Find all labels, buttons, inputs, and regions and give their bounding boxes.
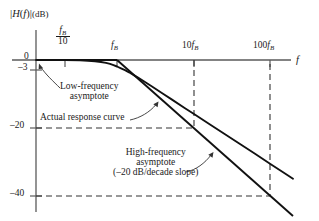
high-frequency-asymptote-line <box>117 60 293 216</box>
y-tick-label-minus20: –20 <box>10 121 24 131</box>
x-axis-label: f <box>296 54 299 65</box>
x-tick-label-fb-over-10-den: 10 <box>56 37 70 47</box>
y-tick-label-minus40: –40 <box>10 189 24 199</box>
annotation-high-frequency-asymptote: High-frequency asymptote (–20 dB/decade … <box>113 148 198 178</box>
x-tick-label-fb-sub: B <box>114 44 118 51</box>
y-tick-label-minus3: –3 <box>18 63 28 73</box>
low-frequency-asymptote-leader <box>41 67 61 89</box>
x-tick-label-10fb: 10fB <box>182 41 198 51</box>
y-axis-title: |H(f)|(dB) <box>10 8 48 20</box>
annotation-low-frequency-asymptote: Low-frequency asymptote <box>60 82 119 102</box>
x-tick-label-fb: fB <box>111 41 118 51</box>
x-tick-label-fb-over-10-sub: B <box>62 29 66 36</box>
annotation-actual-response-curve: Actual response curve <box>40 113 124 123</box>
x-tick-label-10fb-base: 10 <box>182 40 192 50</box>
y-axis-title-units: (dB) <box>32 9 49 19</box>
low-frequency-asymptote-arrowhead <box>39 64 44 70</box>
annotation-actual-response-curve-line-1: Actual response curve <box>40 113 124 123</box>
x-tick-label-100fb-sub: B <box>270 44 274 51</box>
x-tick-label-100fb-base: 100 <box>253 40 267 50</box>
annotation-low-frequency-asymptote-line-2: asymptote <box>60 92 119 102</box>
x-tick-label-100fb: 100fB <box>253 41 274 51</box>
y-axis-title-h: H <box>12 8 20 19</box>
y-tick-label-0: 0 <box>24 52 29 62</box>
x-tick-label-10fb-sub: B <box>194 44 198 51</box>
annotation-high-frequency-asymptote-line-3: (–20 dB/decade slope) <box>113 168 198 178</box>
x-tick-label-fb-over-10: fB 10 <box>56 26 70 47</box>
actual-response-curve-leader <box>130 105 156 121</box>
plot-canvas <box>0 0 319 221</box>
bode-plot-figure: |H(f)|(dB) f 0 –3 –20 –40 fB 10 fB 10fB … <box>0 0 319 221</box>
